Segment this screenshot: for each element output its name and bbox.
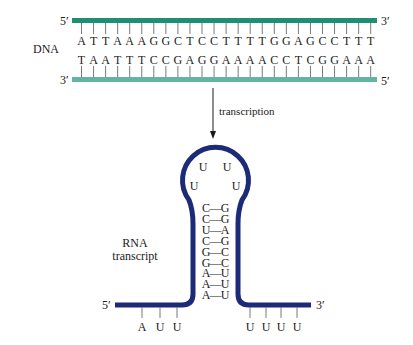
dna-top-base: A [113, 34, 122, 48]
dna-top-base: T [234, 34, 242, 48]
dna-bottom-5prime-label: 5′ [381, 74, 390, 88]
arrow-down-icon [210, 131, 216, 139]
dna-bottom-base: A [234, 53, 243, 67]
rna-tail-base: U [277, 320, 286, 334]
rna-tail-base: U [156, 320, 165, 334]
dna-top-base: T [186, 34, 194, 48]
dna-top-base: T [222, 34, 230, 48]
dna-bottom-base: C [306, 53, 314, 67]
dna-top-base: C [210, 34, 218, 48]
dna-top-base: C [331, 34, 339, 48]
dna-top-base: C [318, 34, 326, 48]
dna-bottom-base: A [89, 53, 98, 67]
dna-bottom-base: G [330, 53, 339, 67]
rna-label-line2: transcript [112, 249, 158, 263]
dna-top-base: G [306, 34, 315, 48]
dna-top-base: C [174, 34, 182, 48]
dna-bottom-base: C [270, 53, 278, 67]
dna-top-base: G [149, 34, 158, 48]
transcription-diagram: DNA 5′ 3′ ATTAAAGGCTCCTTTTGGAGCCTTT TAAT… [0, 0, 413, 345]
dna-top-base: A [294, 34, 303, 48]
dna-bottom-base: A [246, 53, 255, 67]
dna-bottom-base: G [210, 53, 219, 67]
dna-top-5prime-label: 5′ [60, 14, 69, 28]
rna-label-line1: RNA [122, 236, 148, 250]
dna-bottom-strand-backbone [72, 77, 377, 82]
dna-bottom-ticks [82, 66, 371, 77]
dna-top-sequence: ATTAAAGGCTCCTTTTGGAGCCTTT [77, 34, 375, 48]
dna-bottom-base: A [366, 53, 375, 67]
rna-right-tail: UUUU [246, 307, 302, 334]
dna-bottom-base: T [138, 53, 146, 67]
rna-stem: C—GC—GU—AC—GG—CG—CA—UA—UA—U [202, 201, 230, 302]
dna-top-base: A [77, 34, 86, 48]
dna-bottom-base: T [126, 53, 134, 67]
dna-bottom-sequence: TAATTTCCGAGGAAAACCTCGGAAA [78, 53, 376, 67]
dna-top-base: T [343, 34, 351, 48]
loop-base: U [190, 179, 199, 193]
base-pair: A—U [202, 288, 230, 302]
rna-hairpin: RNA transcript U U U U C—GC—GU—AC—GG—CG—… [102, 147, 325, 334]
dna-top-base: C [198, 34, 206, 48]
dna-bottom-base: A [258, 53, 267, 67]
dna-top-base: A [125, 34, 134, 48]
rna-left-tail: AUU [138, 307, 182, 334]
rna-tail-base: A [138, 320, 147, 334]
dna-bottom-base: A [186, 53, 195, 67]
dna-bottom-base: C [162, 53, 170, 67]
dna-bottom-base: A [354, 53, 363, 67]
dna-bottom-base: C [282, 53, 290, 67]
loop-base: U [223, 160, 232, 174]
dna-double-helix: DNA 5′ 3′ ATTAAAGGCTCCTTTTGGAGCCTTT TAAT… [33, 14, 390, 88]
dna-top-base: T [102, 34, 110, 48]
dna-bottom-3prime-label: 3′ [60, 73, 69, 87]
rna-3prime-label: 3′ [316, 298, 325, 312]
dna-bottom-base: G [198, 53, 207, 67]
dna-top-base: G [282, 34, 291, 48]
dna-top-base: G [270, 34, 279, 48]
dna-top-base: A [137, 34, 146, 48]
dna-bottom-base: T [295, 53, 303, 67]
dna-bottom-base: T [114, 53, 122, 67]
dna-bottom-base: G [318, 53, 327, 67]
dna-top-3prime-label: 3′ [381, 14, 390, 28]
transcription-arrow: transcription [210, 88, 275, 139]
dna-top-base: T [247, 34, 255, 48]
dna-top-base: T [367, 34, 375, 48]
dna-top-base: G [162, 34, 171, 48]
loop-base: U [232, 179, 241, 193]
loop-base: U [199, 160, 208, 174]
rna-tail-base: U [246, 320, 255, 334]
dna-bottom-base: G [174, 53, 183, 67]
dna-bottom-base: T [78, 53, 86, 67]
pair-right-base: U [221, 288, 230, 302]
transcription-label: transcription [219, 105, 275, 117]
dna-bottom-base: C [150, 53, 158, 67]
dna-top-ticks [82, 23, 371, 34]
dna-bottom-base: A [101, 53, 110, 67]
dna-top-strand-backbone [72, 18, 377, 23]
dna-bottom-base: A [222, 53, 231, 67]
dna-label: DNA [33, 42, 59, 56]
rna-tail-base: U [293, 320, 302, 334]
dna-top-base: T [259, 34, 267, 48]
rna-5prime-label: 5′ [102, 298, 111, 312]
rna-tail-base: U [262, 320, 271, 334]
dna-top-base: T [90, 34, 98, 48]
dna-bottom-base: A [342, 53, 351, 67]
dna-top-base: T [355, 34, 363, 48]
rna-tail-base: U [173, 320, 182, 334]
